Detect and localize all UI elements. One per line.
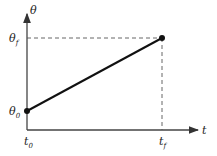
y-axis-label: θ (30, 4, 37, 17)
theta-f-label: θf (9, 32, 20, 47)
t-f-label: tf (159, 135, 167, 150)
t-0-label: t0 (24, 135, 33, 150)
trajectory-line (27, 38, 162, 111)
theta-0-label: θ0 (9, 105, 21, 120)
linear-trajectory-diagram: θ t θf θ0 t0 tf (0, 0, 217, 156)
x-axis-label: t (202, 124, 207, 137)
start-point (24, 108, 30, 114)
end-point (159, 35, 165, 41)
